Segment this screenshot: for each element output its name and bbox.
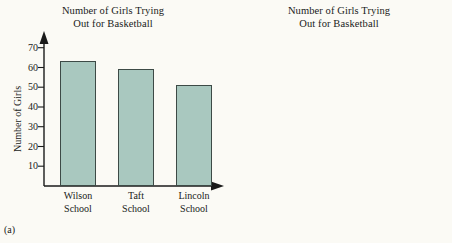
x-label-line1: Lincoln bbox=[178, 190, 209, 201]
x-label-wilson-a: Wilson School bbox=[49, 190, 107, 215]
plot-area-a: 10 20 30 40 50 60 70 Wilson School Taft … bbox=[44, 38, 200, 186]
y-tick-labels-a: 10 20 30 40 50 60 70 bbox=[4, 38, 38, 186]
chart-title-b: Number of Girls Trying Out for Basketbal… bbox=[226, 4, 452, 30]
x-label-line1: Wilson bbox=[64, 190, 93, 201]
x-label-taft-a: Taft School bbox=[107, 190, 165, 215]
figure-caption-a: (a) bbox=[4, 224, 15, 235]
x-label-line2: School bbox=[107, 203, 165, 216]
y-tick-marks-a bbox=[38, 48, 44, 167]
y-tick-label: 70 bbox=[4, 43, 38, 53]
y-tick-label: 10 bbox=[4, 161, 38, 171]
bar-taft-a bbox=[118, 69, 154, 187]
y-tick-label: 40 bbox=[4, 102, 38, 112]
figure-a: Number of Girls Trying Out for Basketbal… bbox=[0, 0, 226, 243]
bar-lincoln-a bbox=[176, 85, 212, 186]
x-label-lincoln-a: Lincoln School bbox=[165, 190, 223, 215]
x-label-line2: School bbox=[49, 203, 107, 216]
y-tick-label: 20 bbox=[4, 142, 38, 152]
chart-title-a-line1: Number of Girls Trying bbox=[62, 5, 164, 16]
figure-b: Number of Girls Trying Out for Basketbal… bbox=[226, 0, 452, 243]
y-tick-label: 30 bbox=[4, 122, 38, 132]
y-tick-label: 50 bbox=[4, 82, 38, 92]
x-label-line1: Taft bbox=[128, 190, 144, 201]
bar-wilson-a bbox=[60, 61, 96, 186]
chart-title-b-line2: Out for Basketball bbox=[226, 17, 452, 30]
x-label-line2: School bbox=[165, 203, 223, 216]
y-tick-label: 60 bbox=[4, 63, 38, 73]
chart-title-b-line1: Number of Girls Trying bbox=[288, 5, 390, 16]
